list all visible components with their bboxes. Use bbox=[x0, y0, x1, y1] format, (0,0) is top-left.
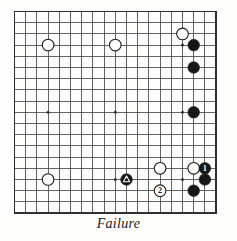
stone-white[interactable] bbox=[177, 28, 189, 40]
stone-white[interactable] bbox=[188, 162, 200, 174]
stone-black[interactable] bbox=[188, 62, 200, 74]
stone-white[interactable] bbox=[42, 174, 54, 186]
stone-black[interactable] bbox=[188, 185, 200, 197]
stone-black[interactable] bbox=[199, 174, 211, 186]
stone-white[interactable] bbox=[42, 39, 54, 51]
stone-white[interactable] bbox=[109, 39, 121, 51]
go-board-container: 12 bbox=[0, 0, 237, 216]
stone-black[interactable] bbox=[188, 106, 200, 118]
move-number-2: 2 bbox=[158, 186, 162, 195]
go-board[interactable]: 12 bbox=[0, 0, 237, 216]
move-number-1: 1 bbox=[203, 164, 207, 173]
diagram-page: 12 Failure bbox=[0, 0, 237, 241]
stone-black[interactable] bbox=[188, 39, 200, 51]
stone-white[interactable] bbox=[154, 162, 166, 174]
figure-caption: Failure bbox=[0, 216, 237, 232]
